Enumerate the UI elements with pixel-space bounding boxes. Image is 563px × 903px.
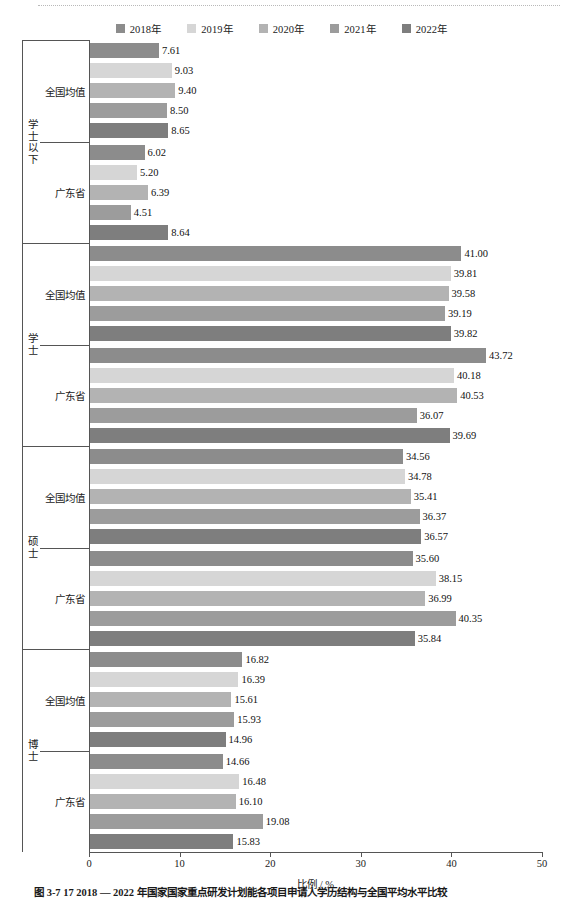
legend-swatch-icon [187, 24, 196, 33]
legend-label: 2020年 [273, 21, 305, 36]
legend-swatch-icon [259, 24, 268, 33]
bar[interactable] [90, 551, 413, 566]
bar[interactable] [90, 489, 411, 504]
legend-item[interactable]: 2018年 [116, 21, 162, 36]
group-label: 硕士 [23, 446, 41, 649]
bar[interactable] [90, 571, 436, 586]
bar-value-label: 41.00 [461, 246, 488, 261]
bar-value-label: 39.69 [450, 428, 477, 443]
x-axis-tick [270, 852, 271, 857]
bar[interactable] [90, 692, 231, 707]
bar[interactable] [90, 591, 425, 606]
bar[interactable] [90, 63, 172, 78]
bar-value-label: 16.39 [238, 672, 265, 687]
bar-value-label: 16.48 [239, 774, 266, 789]
bar[interactable] [90, 529, 421, 544]
bar-value-label: 15.93 [234, 712, 261, 727]
group-label-text: 博士 [25, 739, 40, 762]
legend-item[interactable]: 2021年 [330, 21, 376, 36]
bar[interactable] [90, 388, 457, 403]
bar-value-label: 35.84 [415, 631, 442, 646]
bar[interactable] [90, 326, 451, 341]
bar-value-label: 36.99 [425, 591, 452, 606]
subgroup-label: 广东省 [40, 388, 85, 403]
bar[interactable] [90, 631, 415, 646]
bar[interactable] [90, 652, 242, 667]
bar-value-label: 40.18 [454, 368, 481, 383]
bar-value-label: 7.61 [159, 43, 180, 58]
bar[interactable] [90, 428, 450, 443]
bar[interactable] [90, 123, 168, 138]
bar[interactable] [90, 672, 238, 687]
bar-value-label: 34.78 [405, 469, 432, 484]
x-axis-tick-label: 10 [174, 858, 185, 869]
legend-item[interactable]: 2020年 [259, 21, 305, 36]
bar[interactable] [90, 348, 486, 363]
bar-value-label: 15.83 [233, 834, 260, 849]
bar[interactable] [90, 368, 454, 383]
bar-value-label: 38.15 [436, 571, 463, 586]
bar-value-label: 36.57 [421, 529, 448, 544]
bar[interactable] [90, 814, 263, 829]
bar[interactable] [90, 469, 405, 484]
x-axis-tick-label: 40 [446, 858, 457, 869]
legend-item[interactable]: 2019年 [187, 21, 233, 36]
bar[interactable] [90, 286, 449, 301]
bar-value-label: 6.39 [148, 185, 169, 200]
bar-value-label: 8.64 [168, 225, 189, 240]
subgroup-separator [40, 345, 89, 346]
bar[interactable] [90, 185, 148, 200]
bar[interactable] [90, 103, 167, 118]
group-label-text: 学士 [25, 333, 40, 356]
value-axis-zero-line [89, 40, 90, 852]
bar-value-label: 36.37 [420, 509, 447, 524]
bar[interactable] [90, 611, 456, 626]
bar-value-label: 9.03 [172, 63, 193, 78]
bar-value-label: 39.81 [451, 266, 478, 281]
bar[interactable] [90, 408, 417, 423]
bar[interactable] [90, 712, 234, 727]
page-top-rule [38, 5, 560, 6]
bar[interactable] [90, 246, 461, 261]
bar-value-label: 43.72 [486, 348, 513, 363]
x-axis-tick [451, 852, 452, 857]
x-axis-tick-label: 0 [86, 858, 91, 869]
bar[interactable] [90, 306, 445, 321]
bar[interactable] [90, 145, 145, 160]
x-axis-tick-label: 50 [537, 858, 548, 869]
bar[interactable] [90, 509, 420, 524]
bar-value-label: 8.65 [168, 123, 189, 138]
x-axis-tick [361, 852, 362, 857]
legend-label: 2019年 [201, 21, 233, 36]
legend-swatch-icon [402, 24, 411, 33]
bar-value-label: 40.35 [456, 611, 483, 626]
bar[interactable] [90, 834, 233, 849]
chart-legend: 2018年2019年2020年2021年2022年 [0, 21, 563, 36]
bar-value-label: 16.10 [236, 794, 263, 809]
bar[interactable] [90, 732, 226, 747]
legend-swatch-icon [330, 24, 339, 33]
bar-value-label: 6.02 [145, 145, 166, 160]
bar-value-label: 35.41 [411, 489, 438, 504]
bar-value-label: 39.19 [445, 306, 472, 321]
subgroup-separator [40, 751, 89, 752]
bar[interactable] [90, 205, 131, 220]
bar-value-label: 14.96 [226, 732, 253, 747]
legend-item[interactable]: 2022年 [402, 21, 448, 36]
bar[interactable] [90, 794, 236, 809]
x-axis-tick [89, 852, 90, 857]
bar[interactable] [90, 449, 403, 464]
bar[interactable] [90, 774, 239, 789]
chart-plot-area: 比例 / % 学士以下全国均值7.619.039.408.508.65广东省6.… [22, 40, 542, 852]
bar[interactable] [90, 43, 159, 58]
bar[interactable] [90, 83, 175, 98]
bar-value-label: 16.82 [242, 652, 269, 667]
bar-value-label: 8.50 [167, 103, 188, 118]
bar[interactable] [90, 754, 223, 769]
x-axis-tick [180, 852, 181, 857]
legend-swatch-icon [116, 24, 125, 33]
bar-value-label: 4.51 [131, 205, 152, 220]
bar[interactable] [90, 225, 168, 240]
bar[interactable] [90, 165, 137, 180]
bar[interactable] [90, 266, 451, 281]
